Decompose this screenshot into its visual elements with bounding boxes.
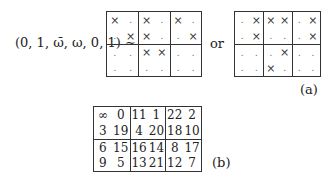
number-cell: 14 (148, 139, 166, 155)
number-cell: 8 (165, 139, 183, 155)
grid-cell: . (154, 12, 170, 28)
grid-cell: . (107, 60, 123, 76)
grid-cell: × (170, 12, 186, 28)
grid-cell: × (278, 44, 292, 60)
number-cell: 4 (130, 123, 148, 139)
grid-cell: . (278, 28, 292, 44)
grid-cell: . (235, 44, 249, 60)
grid-cell: . (107, 44, 123, 60)
grid-cell: . (123, 44, 139, 60)
grid-cell: . (170, 28, 186, 44)
grid-cell: . (235, 28, 249, 44)
grid-cell: . (292, 44, 306, 60)
or-connector: or (210, 36, 224, 51)
grid-cell: . (138, 60, 154, 76)
grid-cell: × (185, 28, 201, 44)
grid-cell: . (292, 28, 306, 44)
caption-a: (a) (300, 82, 318, 97)
number-grid: ∞011122231942018106151614817951321127 (93, 106, 202, 172)
grid-cell: . (249, 44, 263, 60)
number-cell: 3 (94, 123, 112, 139)
number-cell: 2 (183, 107, 201, 123)
grid-cell: . (306, 60, 320, 76)
grid-cell: . (123, 60, 139, 76)
grid-cell: . (185, 12, 201, 28)
number-cell: 7 (183, 155, 201, 171)
number-cell: 20 (148, 123, 166, 139)
grid-cell: . (249, 60, 263, 76)
number-cell: 21 (148, 155, 166, 171)
grid-cell: . (170, 60, 186, 76)
number-cell: 13 (130, 155, 148, 171)
grid-cell: . (235, 60, 249, 76)
grid-cell: . (154, 28, 170, 44)
number-cell: 18 (165, 123, 183, 139)
grid-cell: × (107, 12, 123, 28)
grid-cell: . (278, 60, 292, 76)
number-cell: 5 (112, 155, 130, 171)
grid-cell: . (292, 12, 306, 28)
number-cell: 19 (112, 123, 130, 139)
caption-b: (b) (212, 155, 230, 170)
grid-cell: × (306, 28, 320, 44)
grid-cell: × (138, 44, 154, 60)
grid-cell: . (107, 28, 123, 44)
grid-cell: × (278, 12, 292, 28)
grid-cell: . (263, 28, 277, 44)
number-cell: 0 (112, 107, 130, 123)
grid-cell: . (123, 12, 139, 28)
grid-cell: . (306, 44, 320, 60)
grid-cell: × (154, 44, 170, 60)
number-cell: 16 (130, 139, 148, 155)
grid-cell: . (292, 60, 306, 76)
grid-cell: . (170, 44, 186, 60)
grid-cell: × (263, 12, 277, 28)
grid-cell: × (138, 28, 154, 44)
number-cell: ∞ (94, 107, 112, 123)
number-cell: 10 (183, 123, 201, 139)
number-cell: 1 (148, 107, 166, 123)
grid-cell: × (249, 28, 263, 44)
number-cell: 22 (165, 107, 183, 123)
grid-cell: . (263, 44, 277, 60)
number-cell: 12 (165, 155, 183, 171)
number-cell: 6 (94, 139, 112, 155)
number-cell: 17 (183, 139, 201, 155)
grid-cell: . (185, 60, 201, 76)
grid-cell: . (185, 44, 201, 60)
grid-cell: × (263, 60, 277, 76)
grid-cell: . (154, 60, 170, 76)
grid-cell: . (235, 12, 249, 28)
left-cross-grid: ×.×.×..××..×..××........ (106, 11, 202, 77)
grid-cell: × (138, 12, 154, 28)
grid-cell: × (249, 12, 263, 28)
grid-cell: × (123, 28, 139, 44)
number-cell: 11 (130, 107, 148, 123)
grid-cell: × (306, 12, 320, 28)
right-cross-grid: .×××.×.×...×...×....×... (234, 11, 321, 77)
number-cell: 15 (112, 139, 130, 155)
number-cell: 9 (94, 155, 112, 171)
